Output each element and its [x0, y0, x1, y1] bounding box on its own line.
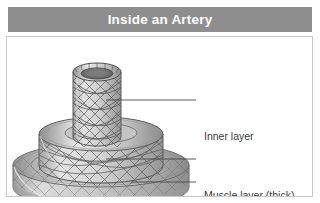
artery-illustration	[7, 37, 313, 197]
figure-title: Inside an Artery	[108, 13, 213, 27]
inner-layer-shape	[67, 63, 127, 147]
artery-figure: Inside an Artery	[0, 0, 320, 203]
callout-label-inner-layer: Inner layer	[204, 131, 254, 142]
figure-panel: Inner layer Muscle layer (thick) Outer l…	[6, 36, 313, 197]
figure-title-bar: Inside an Artery	[8, 7, 312, 32]
callout-label-muscle-layer: Muscle layer (thick)	[204, 190, 294, 197]
